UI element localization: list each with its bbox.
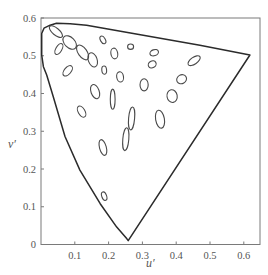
- color-ellipse: [101, 66, 106, 75]
- x-tick-label: 0.4: [170, 250, 184, 261]
- x-tick-label: 0.5: [203, 250, 216, 261]
- color-ellipse: [147, 59, 158, 69]
- color-ellipse: [140, 79, 148, 91]
- color-ellipse: [186, 54, 202, 68]
- spectral-locus-outline: [42, 23, 250, 240]
- y-tick-label: 0.1: [23, 201, 36, 212]
- color-ellipse: [122, 127, 130, 150]
- color-ellipse: [98, 139, 109, 156]
- color-ellipse: [110, 48, 119, 60]
- color-ellipse: [149, 48, 159, 57]
- y-tick-label: 0.3: [23, 126, 36, 137]
- y-tick-label: 0.4: [23, 88, 37, 99]
- color-ellipse: [76, 105, 88, 119]
- color-ellipse: [166, 89, 178, 103]
- color-ellipse: [89, 83, 102, 100]
- y-axis-label: v′: [8, 137, 16, 151]
- color-ellipse: [48, 24, 65, 40]
- x-tick-label: 0.6: [237, 250, 250, 261]
- y-tick-label: 0: [31, 239, 36, 250]
- color-ellipse: [99, 35, 107, 45]
- x-tick-label: 0.1: [68, 250, 81, 261]
- color-ellipse: [100, 191, 108, 201]
- color-ellipse: [128, 44, 134, 49]
- x-axis-label: u′: [146, 256, 155, 270]
- color-ellipse: [74, 43, 91, 62]
- y-tick-label: 0.6: [23, 13, 36, 24]
- x-tick-label: 0.2: [102, 250, 115, 261]
- discrimination-ellipses: [48, 24, 202, 201]
- color-ellipse: [53, 42, 64, 56]
- chromaticity-chart: 0.10.20.30.40.50.6 00.10.20.30.40.50.6 u…: [0, 0, 268, 275]
- color-ellipse: [61, 64, 74, 78]
- color-ellipse: [116, 71, 124, 82]
- color-ellipse: [110, 89, 115, 109]
- color-ellipse: [175, 73, 188, 86]
- y-tick-label: 0.2: [23, 164, 36, 175]
- y-tick-label: 0.5: [23, 50, 36, 61]
- color-ellipse: [128, 107, 136, 130]
- color-ellipse: [154, 109, 166, 128]
